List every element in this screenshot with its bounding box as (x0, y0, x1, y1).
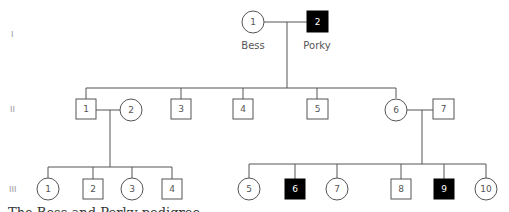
individual-III-1: 1 (37, 178, 59, 200)
individual-number: 8 (398, 184, 404, 194)
individual-III-3: 3 (121, 178, 143, 200)
individual-II-3: 3 (171, 99, 191, 119)
figure-caption-clipped: The Bess and Porky pedigree (8, 205, 200, 212)
individual-II-2: 2 (120, 99, 142, 121)
individual-III-10: 10 (475, 178, 497, 200)
individual-number: 1 (83, 104, 89, 114)
individual-number: 7 (334, 184, 340, 194)
individual-number: 3 (129, 184, 135, 194)
individual-III-7: 7 (326, 178, 348, 200)
individual-III-5: 5 (238, 178, 260, 200)
individual-III-6-affected: 6 (285, 179, 305, 199)
individual-I-2-affected: 2 (307, 11, 328, 32)
individual-number: 6 (393, 105, 399, 115)
individual-number: 5 (246, 184, 252, 194)
individual-number: 4 (240, 104, 246, 114)
individual-number: 10 (480, 184, 492, 194)
individual-number: 1 (250, 17, 256, 27)
individual-III-4: 4 (162, 179, 182, 199)
pedigree-lines (48, 22, 486, 179)
individual-I-1: 1 (242, 11, 264, 33)
individual-number: 4 (169, 184, 175, 194)
individual-number: 5 (315, 104, 321, 114)
individual-III-2: 2 (83, 179, 103, 199)
individual-number: 2 (90, 184, 96, 194)
individual-number: 2 (315, 17, 321, 27)
individual-number: 7 (441, 104, 447, 114)
individual-II-6: 6 (385, 99, 407, 121)
individual-number: 2 (128, 105, 134, 115)
individual-II-7: 7 (433, 99, 454, 119)
individual-number: 9 (441, 184, 447, 194)
pedigree-diagram: 1 2 1 2 3 4 5 6 (0, 0, 509, 212)
individual-number: 3 (178, 104, 184, 114)
individual-II-1: 1 (76, 99, 96, 119)
individual-II-4: 4 (233, 99, 253, 119)
individual-III-9-affected: 9 (434, 179, 454, 199)
individual-number: 6 (292, 184, 298, 194)
individual-number: 1 (45, 184, 51, 194)
individual-III-8: 8 (391, 179, 411, 199)
individual-II-5: 5 (307, 99, 328, 119)
